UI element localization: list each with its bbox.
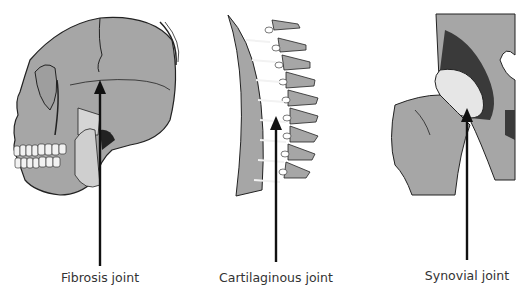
spine-illustration	[228, 15, 318, 196]
joints-diagram	[0, 0, 522, 298]
skull-illustration	[14, 17, 179, 195]
label-fibrosis-joint: Fibrosis joint	[61, 270, 139, 285]
hip-illustration	[392, 14, 516, 195]
label-synovial-joint: Synovial joint	[425, 268, 509, 283]
label-cartilaginous-joint: Cartilaginous joint	[219, 270, 333, 285]
